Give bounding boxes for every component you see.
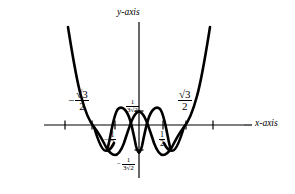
y-axis-label: y-axis (117, 7, 140, 17)
label-neg-one-over-3sqrt2: −13√2 (117, 157, 135, 172)
label-pos-one-over-3sqrt2: 13√2 (125, 99, 139, 114)
numerator: 1 (122, 157, 135, 164)
label-neg-sqrt3-over-2: −√32 (68, 89, 89, 112)
x-axis-label: x-axis (255, 118, 278, 128)
polynomial-graph-figure: y-axis x-axis −√32 √32 −12 12 13√2 −13√2 (0, 0, 295, 194)
numerator: √3 (75, 89, 89, 100)
denominator: 2 (159, 139, 165, 148)
denominator: 3√2 (126, 106, 139, 114)
numerator: 1 (159, 131, 165, 139)
label-pos-sqrt3-over-2: √32 (177, 89, 192, 112)
label-pos-one-half: 12 (158, 131, 165, 148)
denominator: 3√2 (122, 164, 135, 172)
denominator: 2 (110, 139, 116, 148)
label-neg-one-half: −12 (104, 131, 116, 148)
numerator: √3 (178, 89, 192, 100)
numerator: 1 (126, 99, 139, 106)
denominator: 2 (178, 100, 192, 112)
denominator: 2 (75, 100, 89, 112)
numerator: 1 (110, 131, 116, 139)
minus-sign: − (68, 95, 75, 106)
graph-canvas (0, 0, 295, 194)
